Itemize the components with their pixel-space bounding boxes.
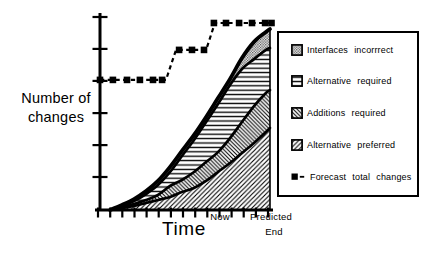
legend-label: Alternative preferred [307, 140, 395, 150]
interfaces-incorrect-swatch-icon [291, 44, 303, 56]
y-axis-label: Number of changes [6, 89, 106, 127]
legend-item-interfaces-incorrect: Interfaces incorrrect [291, 43, 414, 56]
figure-canvas: Number of changes Time Now Predicted End… [0, 0, 423, 253]
y-axis-label-line1: Number of [6, 89, 106, 108]
x-annotation-now: Now [210, 211, 230, 222]
legend-box: Interfaces incorrrect Alternative requir… [277, 31, 419, 197]
x-axis-label: Time [152, 218, 216, 240]
legend-item-forecast-total-changes: Forecast total changes [291, 170, 414, 183]
legend-label: Interfaces incorrrect [307, 45, 393, 55]
legend-item-additions-required: Additions required [291, 107, 414, 120]
stacked-area-bands [110, 29, 270, 210]
additions-required-swatch-icon [291, 107, 303, 119]
forecast-marker-icon [291, 172, 306, 182]
x-annotation-end: End [265, 226, 283, 237]
legend-label: Forecast total changes [310, 172, 411, 182]
alternative-preferred-swatch-icon [291, 139, 303, 151]
alternative-required-swatch-icon [291, 75, 303, 87]
legend-label: Alternative required [307, 76, 392, 86]
legend-label: Additions required [307, 108, 386, 118]
x-annotation-predicted: Predicted [250, 211, 292, 222]
legend-item-alternative-preferred: Alternative preferred [291, 138, 414, 151]
legend-item-alternative-required: Alternative required [291, 75, 414, 88]
y-axis-label-line2: changes [6, 108, 106, 127]
